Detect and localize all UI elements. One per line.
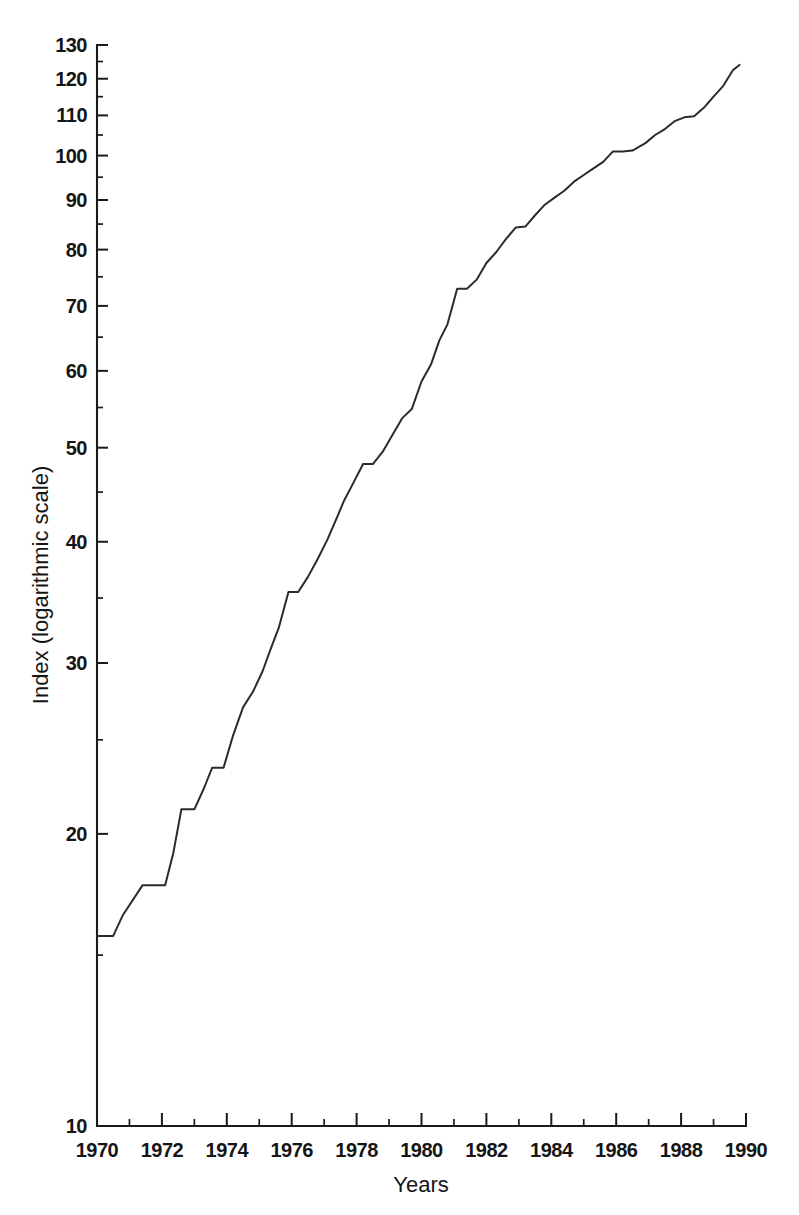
y-tick-label: 10 xyxy=(66,1115,88,1137)
x-tick-label: 1990 xyxy=(725,1139,768,1161)
x-tick-label: 1986 xyxy=(595,1139,638,1161)
chart-figure: 130120110100908070605040302010 Index (lo… xyxy=(0,0,799,1215)
y-tick-label: 110 xyxy=(56,104,87,126)
y-tick-label: 80 xyxy=(66,239,88,261)
x-tick-label: 1982 xyxy=(465,1139,508,1161)
x-axis-title: Years xyxy=(393,1172,448,1197)
x-tick-label: 1980 xyxy=(400,1139,443,1161)
x-tick-label: 1988 xyxy=(660,1139,703,1161)
y-tick-label: 40 xyxy=(66,531,88,553)
chart-background xyxy=(0,0,799,1215)
y-tick-label: 120 xyxy=(55,68,87,90)
y-axis-title: Index (logarithmic scale) xyxy=(28,466,53,704)
x-tick-label: 1974 xyxy=(206,1139,250,1161)
y-tick-label: 30 xyxy=(66,652,88,674)
x-tick-label: 1976 xyxy=(270,1139,313,1161)
y-tick-label: 100 xyxy=(55,145,87,167)
y-tick-label: 60 xyxy=(66,360,88,382)
x-tick-label: 1972 xyxy=(141,1139,184,1161)
y-tick-label: 50 xyxy=(66,437,88,459)
line-chart-canvas: 130120110100908070605040302010 Index (lo… xyxy=(0,0,799,1215)
x-axis-tick-labels: 1970197219741976197819801982198419861988… xyxy=(76,1139,768,1161)
x-tick-label: 1978 xyxy=(335,1139,378,1161)
y-tick-label: 130 xyxy=(55,34,87,56)
y-tick-label: 70 xyxy=(66,295,88,317)
x-tick-label: 1984 xyxy=(530,1139,574,1161)
x-tick-label: 1970 xyxy=(76,1139,119,1161)
y-tick-label: 20 xyxy=(66,823,88,845)
y-tick-label: 90 xyxy=(66,189,88,211)
